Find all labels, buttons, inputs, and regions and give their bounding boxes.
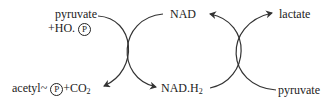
reaction-diagram: pyruvate +HO. P acetyl~ P+CO2 NAD NAD.H2… <box>0 0 327 103</box>
label-nad: NAD <box>170 7 196 21</box>
phosphate-circle-icon: P <box>50 83 63 96</box>
label-phosphate: +HO. P <box>48 21 91 36</box>
label-lactate: lactate <box>279 7 310 21</box>
label-acetyl-phosphate-co2: acetyl~ P+CO2 <box>12 81 91 96</box>
phosphate-circle-icon: P <box>78 23 91 36</box>
arrow-nad-to-nadh2 <box>127 14 163 87</box>
label-nadh2: NAD.H2 <box>161 81 203 95</box>
arrow-pyruvate-to-lactate <box>236 13 276 90</box>
arrow-pyruvate-to-acetyl <box>98 16 129 86</box>
label-pyruvate-left: pyruvate <box>55 7 97 21</box>
label-pyruvate-right: pyruvate <box>278 83 320 97</box>
